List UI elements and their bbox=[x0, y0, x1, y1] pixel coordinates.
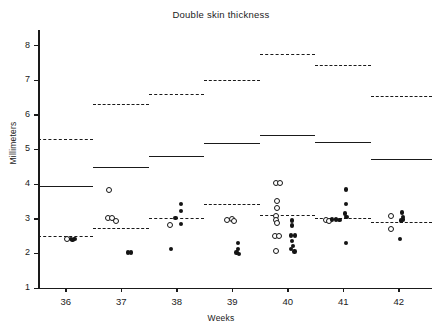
upper-dashed-reference-line bbox=[93, 104, 148, 105]
upper-solid-reference-line bbox=[204, 143, 259, 144]
page-margin bbox=[0, 326, 442, 332]
data-point-filled bbox=[344, 215, 348, 219]
data-point-filled bbox=[337, 218, 341, 222]
upper-solid-reference-line bbox=[260, 135, 315, 136]
x-tick-label: 38 bbox=[162, 296, 192, 307]
data-point-filled bbox=[290, 218, 294, 222]
y-tick-label: 6 bbox=[12, 109, 30, 119]
upper-dashed-reference-line bbox=[371, 96, 432, 97]
mean-reference-line bbox=[204, 204, 259, 205]
upper-solid-reference-line bbox=[93, 167, 148, 168]
y-tick-label: 4 bbox=[12, 178, 30, 188]
x-tick-mark bbox=[398, 288, 399, 292]
x-tick-label: 41 bbox=[328, 296, 358, 307]
data-point-filled bbox=[173, 216, 177, 220]
chart-figure: Double skin thickness Millimeters Weeks … bbox=[0, 0, 442, 332]
y-tick-label: 8 bbox=[12, 40, 30, 50]
y-tick-label: 2 bbox=[12, 247, 30, 257]
y-tick-mark bbox=[34, 218, 38, 219]
data-point-open bbox=[113, 218, 119, 224]
x-tick-mark bbox=[176, 288, 177, 292]
y-tick-mark bbox=[34, 184, 38, 185]
upper-dashed-reference-line bbox=[149, 94, 204, 95]
upper-solid-reference-line bbox=[38, 186, 93, 187]
y-tick-mark bbox=[34, 253, 38, 254]
upper-dashed-reference-line bbox=[315, 65, 370, 66]
x-tick-label: 37 bbox=[106, 296, 136, 307]
upper-dashed-reference-line bbox=[260, 54, 315, 55]
x-tick-label: 42 bbox=[384, 296, 414, 307]
data-point-filled bbox=[236, 241, 240, 245]
x-tick-mark bbox=[232, 288, 233, 292]
upper-dashed-reference-line bbox=[38, 139, 93, 140]
chart-title: Double skin thickness bbox=[0, 9, 442, 20]
y-tick-mark bbox=[34, 45, 38, 46]
y-tick-label: 5 bbox=[12, 143, 30, 153]
mean-reference-line bbox=[93, 228, 148, 229]
data-point-filled bbox=[292, 249, 296, 253]
y-tick-mark bbox=[34, 288, 38, 289]
data-point-filled bbox=[398, 237, 402, 241]
x-tick-label: 36 bbox=[51, 296, 81, 307]
data-point-filled bbox=[293, 233, 297, 237]
data-point-open bbox=[276, 233, 282, 239]
x-tick-mark bbox=[287, 288, 288, 292]
upper-solid-reference-line bbox=[315, 142, 370, 143]
upper-solid-reference-line bbox=[371, 159, 432, 160]
x-tick-mark bbox=[121, 288, 122, 292]
data-point-filled bbox=[344, 187, 348, 191]
x-axis-title: Weeks bbox=[0, 313, 442, 323]
upper-solid-reference-line bbox=[149, 156, 204, 157]
x-tick-mark bbox=[343, 288, 344, 292]
data-point-filled bbox=[399, 218, 403, 222]
upper-dashed-reference-line bbox=[204, 80, 259, 81]
y-tick-label: 3 bbox=[12, 213, 30, 223]
y-tick-mark bbox=[34, 114, 38, 115]
x-tick-label: 40 bbox=[273, 296, 303, 307]
y-tick-mark bbox=[34, 149, 38, 150]
data-point-open bbox=[388, 213, 394, 219]
data-point-filled bbox=[70, 238, 74, 242]
y-tick-label: 1 bbox=[12, 282, 30, 292]
x-tick-label: 39 bbox=[217, 296, 247, 307]
x-tick-mark bbox=[65, 288, 66, 292]
y-tick-mark bbox=[34, 80, 38, 81]
y-tick-label: 7 bbox=[12, 74, 30, 84]
mean-reference-line bbox=[260, 215, 315, 216]
